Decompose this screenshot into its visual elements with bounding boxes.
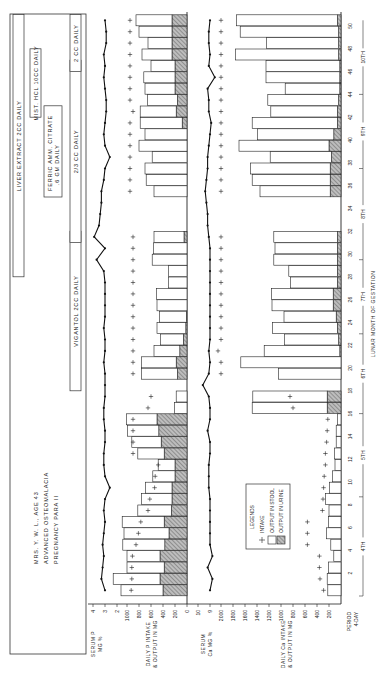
- svg-text:2: 2: [114, 610, 120, 613]
- svg-text:26: 26: [347, 297, 353, 303]
- svg-text:14: 14: [347, 433, 353, 439]
- svg-text:34: 34: [347, 205, 353, 211]
- metabolic-balance-chart: MRS. Y. W. L., AGE 43ADVANCED OSTEOMALAC…: [0, 0, 377, 674]
- svg-text:2000: 2000: [218, 610, 224, 621]
- svg-text:10TH: 10TH: [360, 51, 366, 64]
- svg-text:DAILY Ca INTAKE: DAILY Ca INTAKE: [280, 620, 286, 669]
- svg-text:22: 22: [347, 342, 353, 348]
- svg-text:INTAKE: INTAKE: [259, 515, 265, 533]
- svg-text:200: 200: [172, 610, 178, 619]
- svg-text:1000: 1000: [278, 610, 284, 621]
- svg-text:42: 42: [347, 114, 353, 120]
- patient-info-line: ADVANCED OSTEOMALACIA: [43, 472, 49, 564]
- svg-text:28: 28: [347, 274, 353, 280]
- svg-text:4-DAY: 4-DAY: [353, 611, 359, 626]
- svg-text:200: 200: [326, 610, 332, 619]
- plot-area: [93, 15, 341, 596]
- svg-text:3: 3: [102, 610, 108, 613]
- svg-text:46: 46: [347, 69, 353, 75]
- svg-text:4TH: 4TH: [360, 541, 366, 551]
- svg-text:4: 4: [90, 610, 96, 613]
- svg-text:2/3 CC DAILY: 2/3 CC DAILY: [73, 130, 79, 174]
- svg-text:38: 38: [347, 160, 353, 166]
- svg-text:1600: 1600: [242, 610, 248, 621]
- svg-text:18: 18: [347, 388, 353, 394]
- svg-text:36: 36: [347, 183, 353, 189]
- svg-text:44: 44: [347, 91, 353, 97]
- svg-text:2: 2: [347, 572, 353, 575]
- svg-text:LIVER EXTRACT 2CC DAILY: LIVER EXTRACT 2CC DAILY: [16, 100, 22, 191]
- svg-text:2 CC DAILY: 2 CC DAILY: [73, 24, 79, 62]
- svg-text:1000: 1000: [124, 610, 130, 621]
- svg-text:PERIOD: PERIOD: [346, 612, 352, 632]
- svg-text:5TH: 5TH: [360, 450, 366, 460]
- svg-text:VIGANTOL 2CC DAILY: VIGANTOL 2CC DAILY: [73, 275, 79, 346]
- svg-text:20: 20: [347, 365, 353, 371]
- svg-text:9: 9: [207, 610, 213, 613]
- patient-info-line: MRS. Y. W. L., AGE 43: [33, 491, 39, 564]
- svg-text:50: 50: [347, 23, 353, 29]
- svg-text:0: 0: [184, 610, 190, 613]
- svg-text:10: 10: [347, 479, 353, 485]
- svg-text:LUNAR MONTH OF GESTATION: LUNAR MONTH OF GESTATION: [370, 271, 376, 358]
- svg-text:& OUTPUT IN MG: & OUTPUT IN MG: [152, 620, 158, 668]
- svg-text:16: 16: [347, 411, 353, 417]
- svg-text:400: 400: [314, 610, 320, 619]
- legend: LEGENDSINTAKEOUTPUT IN STOOLOUTPUT IN UR…: [246, 484, 290, 549]
- treatment-annotations: MRS. Y. W. L., AGE 43ADVANCED OSTEOMALAC…: [10, 14, 86, 654]
- svg-text:OUTPUT IN URINE: OUTPUT IN URINE: [278, 489, 284, 533]
- svg-text:.6 GM DAILY: .6 GM DAILY: [54, 144, 60, 185]
- svg-text:SERUM: SERUM: [200, 634, 206, 655]
- chart-frame: MRS. Y. W. L., AGE 43ADVANCED OSTEOMALAC…: [0, 0, 377, 674]
- svg-text:400: 400: [160, 610, 166, 619]
- svg-text:Ca MG %: Ca MG %: [207, 631, 213, 656]
- svg-text:32: 32: [347, 228, 353, 234]
- svg-text:800: 800: [290, 610, 296, 619]
- svg-text:12: 12: [347, 456, 353, 462]
- svg-text:7TH: 7TH: [360, 292, 366, 302]
- patient-info-line: PREGNANCY PARA II: [53, 495, 59, 564]
- svg-text:30: 30: [347, 251, 353, 257]
- svg-text:600: 600: [302, 610, 308, 619]
- svg-text:FERRIC AMM. CITRATE: FERRIC AMM. CITRATE: [47, 115, 53, 191]
- svg-text:6TH: 6TH: [360, 369, 366, 379]
- svg-text:48: 48: [347, 46, 353, 52]
- svg-text:8TH: 8TH: [360, 209, 366, 219]
- svg-text:40: 40: [347, 137, 353, 143]
- svg-text:8: 8: [347, 503, 353, 506]
- svg-text:10: 10: [195, 610, 201, 616]
- svg-text:MIST. HCL 10CC DAILY: MIST. HCL 10CC DAILY: [33, 46, 39, 121]
- svg-text:SERUM P: SERUM P: [90, 631, 96, 657]
- svg-text:4: 4: [347, 549, 353, 552]
- svg-text:DAILY P INTAKE: DAILY P INTAKE: [145, 621, 151, 666]
- svg-text:24: 24: [347, 319, 353, 325]
- svg-text:& OUTPUT IN MG: & OUTPUT IN MG: [287, 620, 293, 668]
- svg-text:MG %: MG %: [97, 636, 103, 652]
- svg-text:600: 600: [148, 610, 154, 619]
- svg-text:6: 6: [347, 526, 353, 529]
- svg-text:1200: 1200: [266, 610, 272, 621]
- svg-text:LEGENDS: LEGENDS: [249, 504, 255, 529]
- svg-text:OUTPUT IN STOOL: OUTPUT IN STOOL: [269, 488, 275, 533]
- svg-text:9TH: 9TH: [360, 126, 366, 136]
- svg-text:800: 800: [136, 610, 142, 619]
- svg-text:1800: 1800: [230, 610, 236, 621]
- svg-text:1400: 1400: [254, 610, 260, 621]
